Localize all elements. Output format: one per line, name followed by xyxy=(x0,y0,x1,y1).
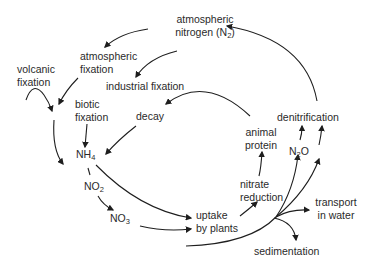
uptake-line2: by plants xyxy=(196,222,238,235)
node-volcanic-fixation: volcanic fixation xyxy=(17,63,55,89)
node-industrial-fixation: industrial fixation xyxy=(106,80,184,93)
no2-subscript: 2 xyxy=(100,185,104,194)
arrow-n2o-to-denitrification xyxy=(300,126,302,140)
atmospheric-fixation-line1: atmospheric xyxy=(80,50,137,63)
arrow-volcanic-fixation-loop xyxy=(26,89,52,111)
arrow-volcanic-to-nh4 xyxy=(54,120,63,164)
arrow-n2-to-atmospheric-fixation xyxy=(105,29,148,47)
animal-protein-line1: animal xyxy=(236,126,286,139)
node-denitrification: denitrification xyxy=(277,111,339,124)
arrow-no2-to-no3 xyxy=(98,196,113,210)
atmospheric-fixation-line2: fixation xyxy=(80,63,137,76)
n2o-tail: O xyxy=(301,145,309,157)
arrow-decay-to-nh4 xyxy=(106,126,136,154)
nitrogen-cycle-diagram: atmospheric nitrogen (N2) atmospheric fi… xyxy=(0,0,373,271)
nitrate-reduction-line2: reduction xyxy=(240,191,283,204)
volcanic-fixation-line1: volcanic xyxy=(17,63,55,76)
node-no3: NO3 xyxy=(110,212,130,225)
arrow-biotic-to-nh4 xyxy=(85,124,87,147)
transport-line1: transport xyxy=(311,196,361,209)
node-no2: NO2 xyxy=(84,180,104,193)
node-uptake-by-plants: uptake by plants xyxy=(196,209,238,235)
nh4-base: NH xyxy=(76,148,91,160)
node-nitrate-reduction: nitrate reduction xyxy=(240,178,283,204)
transport-line2: in water xyxy=(311,209,361,222)
arrow-no3-to-uptake xyxy=(140,226,191,230)
uptake-line1: uptake xyxy=(196,209,238,222)
biotic-fixation-line1: biotic xyxy=(75,98,108,111)
no3-subscript: 3 xyxy=(126,217,130,226)
arrow-branch-to-transport xyxy=(276,210,309,217)
node-n2o: N2O xyxy=(289,145,309,158)
arrow-nitrate-reduction-to-animal-protein xyxy=(259,152,262,176)
n2o-base: N xyxy=(289,145,297,157)
node-decay: decay xyxy=(136,110,164,123)
node-biotic-fixation: biotic fixation xyxy=(75,98,108,124)
node-sedimentation: sedimentation xyxy=(254,245,319,258)
biotic-fixation-line2: fixation xyxy=(75,111,108,124)
no3-base: NO xyxy=(110,212,126,224)
nh4-subscript: 4 xyxy=(91,153,95,162)
arrow-nh4-to-uptake xyxy=(96,165,191,218)
n2-tail: ) xyxy=(231,26,235,38)
node-atmospheric-nitrogen-line1: atmospheric xyxy=(150,13,260,26)
node-transport-in-water: transport in water xyxy=(311,196,361,222)
node-atmospheric-fixation: atmospheric fixation xyxy=(80,50,137,76)
arrows-layer xyxy=(0,0,373,271)
node-atmospheric-nitrogen: atmospheric nitrogen (N2) xyxy=(150,13,260,39)
node-animal-protein: animal protein xyxy=(236,126,286,152)
arrow-branch-to-sedimentation xyxy=(274,218,296,240)
volcanic-fixation-line2: fixation xyxy=(17,76,55,89)
node-nh4: NH4 xyxy=(76,148,95,161)
animal-protein-line2: protein xyxy=(236,139,286,152)
no2-base: NO xyxy=(84,180,100,192)
nitrate-reduction-line1: nitrate xyxy=(240,178,283,191)
arrow-n2-to-industrial-fixation xyxy=(136,51,177,77)
arrow-uptake-to-nitrate-reduction xyxy=(240,202,257,216)
arrow-nh4-to-no2 xyxy=(88,168,90,175)
node-atmospheric-nitrogen-line2: nitrogen (N2) xyxy=(150,26,260,39)
arrow-up-to-denitrification xyxy=(319,126,322,145)
arrow-animal-protein-to-decay xyxy=(166,92,250,117)
n2-base: nitrogen (N xyxy=(175,26,227,38)
